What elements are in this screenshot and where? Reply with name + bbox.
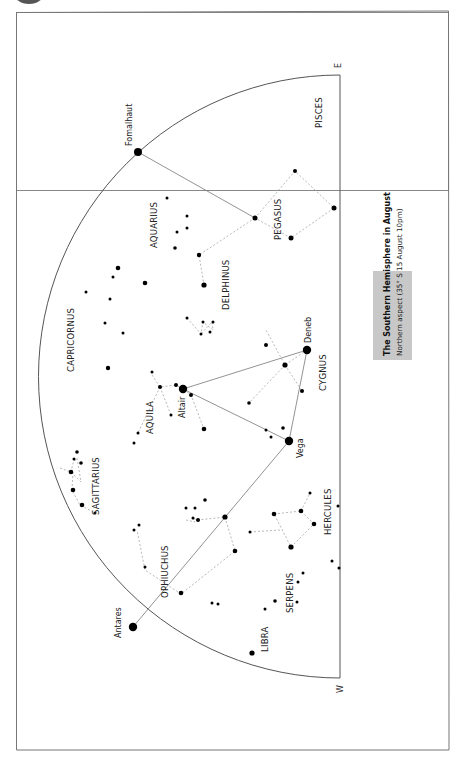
label-vega: Vega: [296, 438, 305, 458]
label-ophiuchus: OPHIUCHUS: [160, 545, 170, 598]
label-aquila: AQUILA: [145, 401, 155, 434]
page-frame: [17, 13, 449, 191]
title-box: The Southern Hemisphere in August Northe…: [373, 192, 412, 360]
label-antares: Antares: [114, 607, 123, 638]
star-chart: E W: [0, 0, 461, 759]
label-sagittarius: SAGITTARIUS: [91, 457, 101, 515]
label-serpens: SERPENS: [285, 573, 295, 613]
chart-subtitle: Northern aspect (35° S 15 August 10pm): [395, 208, 404, 356]
stars: [69, 148, 341, 656]
label-altair: Altair: [178, 396, 187, 418]
direction-east: E: [334, 63, 343, 68]
constellation-lines: [60, 171, 334, 594]
outer-border: [17, 11, 450, 750]
label-hercules: HERCULES: [323, 488, 333, 535]
chart-title: The Southern Hemisphere in August: [383, 192, 392, 356]
label-delphinus: DELPHINUS: [221, 260, 231, 310]
direction-west: W: [336, 685, 345, 693]
label-libra: LIBRA: [260, 627, 270, 652]
label-aquarius: AQUARIUS: [149, 202, 159, 248]
label-deneb: Deneb: [304, 317, 313, 343]
label-cygnus: CYGNUS: [318, 354, 328, 391]
label-pisces: PISCES: [314, 97, 324, 128]
label-pegasus: PEGASUS: [273, 199, 283, 240]
label-fomalhaut: Fomalhaut: [125, 104, 134, 146]
label-capricornus: CAPRICORNUS: [66, 308, 76, 372]
star-labels: Fomalhaut Deneb Altair Vega Antares: [114, 104, 313, 638]
constellation-labels: PISCES PEGASUS AQUARIUS DELPHINUS CAPRIC…: [66, 97, 333, 652]
